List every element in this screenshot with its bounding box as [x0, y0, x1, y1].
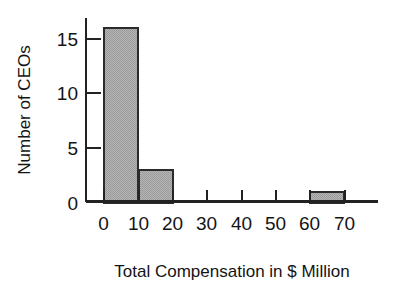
x-tick-label-20: 20 — [162, 213, 183, 234]
x-tick-label-60: 60 — [299, 213, 320, 234]
x-tick-label-50: 50 — [265, 213, 286, 234]
bar-10-20[interactable] — [139, 170, 173, 203]
bar-0-10[interactable] — [104, 28, 138, 203]
x-tick-label-0: 0 — [98, 213, 109, 234]
x-tick-label-40: 40 — [231, 213, 252, 234]
x-tick-label-30: 30 — [196, 213, 217, 234]
y-tick-label-10: 10 — [57, 83, 78, 104]
chart-screenshot: 051015 010203040506070 Total Compensatio… — [0, 0, 406, 297]
x-tick-label-70: 70 — [334, 213, 355, 234]
y-tick-label-15: 15 — [57, 29, 78, 50]
y-tick-label-5: 5 — [67, 138, 78, 159]
histogram-chart: 051015 010203040506070 Total Compensatio… — [0, 0, 406, 297]
y-tick-label-0: 0 — [67, 193, 78, 214]
x-tick-label-10: 10 — [128, 213, 149, 234]
y-axis-title: Number of CEOs — [15, 45, 34, 174]
x-axis-title: Total Compensation in $ Million — [114, 262, 349, 281]
